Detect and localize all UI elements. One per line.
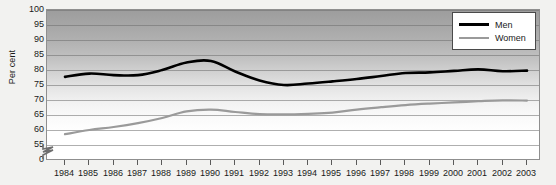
series-line-women xyxy=(65,100,527,134)
x-axis-tick xyxy=(234,160,235,165)
y-axis-tick-label: 100 xyxy=(18,5,44,14)
x-axis-tick xyxy=(259,160,260,165)
y-axis-tick-label: 90 xyxy=(18,35,44,44)
legend-label-women: Women xyxy=(495,33,526,43)
x-axis-tick xyxy=(64,160,65,165)
x-axis-tick xyxy=(356,160,357,165)
x-axis-tick xyxy=(283,160,284,165)
x-axis-tick-labels: 1984198519861987198819891990199119921993… xyxy=(46,168,540,182)
x-axis-tick xyxy=(307,160,308,165)
y-axis-tick-label: 60 xyxy=(18,125,44,134)
x-axis-tick xyxy=(477,160,478,165)
x-axis-tick xyxy=(161,160,162,165)
legend-swatch-men-icon xyxy=(459,23,489,26)
x-axis-tick xyxy=(137,160,138,165)
legend-item-men: Men xyxy=(459,18,529,31)
y-axis-tick-label: 70 xyxy=(18,95,44,104)
x-axis-tick xyxy=(429,160,430,165)
chart-legend: Men Women xyxy=(452,12,536,50)
x-axis-tick xyxy=(113,160,114,165)
y-axis-tick-label: 65 xyxy=(18,110,44,119)
x-axis-tick xyxy=(380,160,381,165)
line-chart: Per cent 1009590858075706560550 19841985… xyxy=(0,0,556,185)
legend-label-men: Men xyxy=(495,20,513,30)
x-axis-tick xyxy=(526,160,527,165)
y-axis-tick-label: 75 xyxy=(18,80,44,89)
x-axis-tick xyxy=(210,160,211,165)
x-axis-tick xyxy=(331,160,332,165)
y-axis-break-icon xyxy=(40,144,58,160)
x-axis-tick xyxy=(186,160,187,165)
legend-item-women: Women xyxy=(459,31,529,44)
y-axis-title: Per cent xyxy=(7,37,17,97)
x-axis-tick xyxy=(88,160,89,165)
y-axis-tick-label: 85 xyxy=(18,50,44,59)
x-axis-tick xyxy=(453,160,454,165)
legend-swatch-women-icon xyxy=(459,37,489,39)
series-line-men xyxy=(65,60,527,85)
x-axis-tick xyxy=(404,160,405,165)
y-axis-tick-label: 80 xyxy=(18,65,44,74)
x-axis-tick-label: 2003 xyxy=(509,168,543,179)
x-axis-tick xyxy=(502,160,503,165)
x-axis-ticks xyxy=(46,160,540,166)
y-axis-tick-label: 95 xyxy=(18,20,44,29)
